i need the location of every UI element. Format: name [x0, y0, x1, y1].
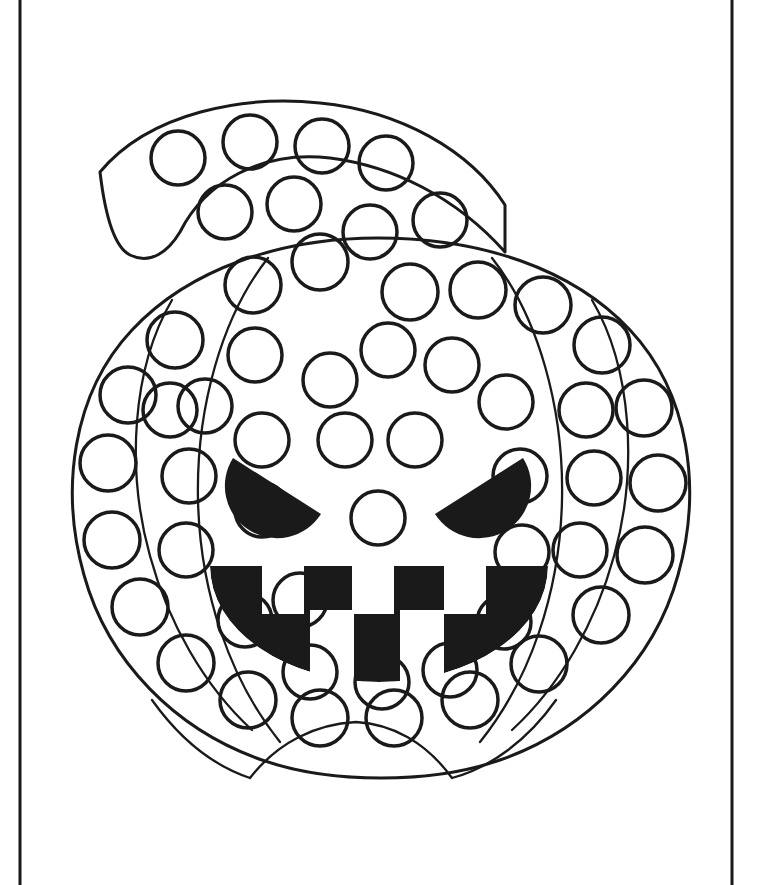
dot-circle[interactable] — [198, 185, 252, 239]
jack-o-lantern-artwork — [0, 0, 760, 885]
dot-circle[interactable] — [413, 193, 467, 247]
coloring-page: Jack-o-Lantern Dot Marker Coloring Page … — [0, 0, 760, 885]
dot-circle[interactable] — [267, 177, 321, 231]
